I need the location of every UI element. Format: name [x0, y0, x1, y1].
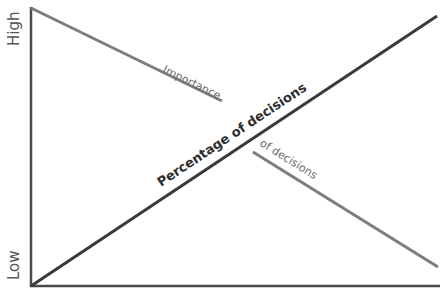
- y-axis-high-label: High: [5, 12, 23, 46]
- importance-label: Importance: [161, 63, 224, 102]
- percentage-line: [31, 16, 437, 286]
- decision-diagram: High Low Importance of decisions Percent…: [0, 0, 446, 291]
- importance-line-lower: [253, 152, 438, 267]
- y-axis-low-label: Low: [5, 250, 23, 280]
